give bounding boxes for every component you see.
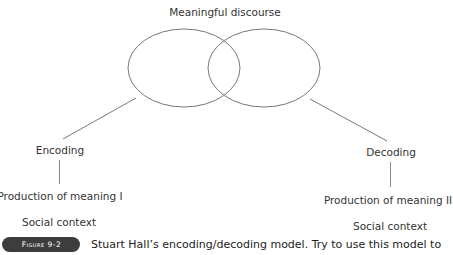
encoding-decoding-diagram: Meaningful discourse Encoding Production… [0,0,453,255]
figure-caption: Figure 9-2 Stuart Hall’s encoding/decodi… [2,236,441,253]
left-social-context-label: Social context [22,217,96,228]
decoding-ellipse [208,29,320,107]
decoding-label: Decoding [366,147,416,158]
diagram-title: Meaningful discourse [169,7,281,18]
decoding-connector-line [310,99,387,141]
caption-text: Stuart Hall’s encoding/decoding model. T… [91,238,441,251]
production-of-meaning-1-label: Production of meaning I [0,191,123,202]
production-of-meaning-2-label: Production of meaning II [324,195,452,206]
encoding-label: Encoding [36,145,84,156]
right-social-context-label: Social context [353,221,427,232]
figure-label-badge: Figure 9-2 [2,237,80,252]
encoding-connector-line [63,98,136,139]
